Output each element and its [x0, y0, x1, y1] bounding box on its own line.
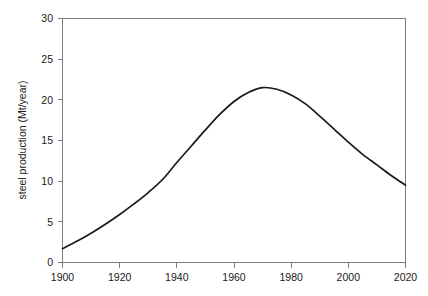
y-tick-label-15: 15	[41, 134, 53, 146]
x-tick-label-1900: 1900	[51, 271, 75, 283]
y-tick-label-0: 0	[47, 256, 53, 268]
y-tick-marks	[58, 19, 63, 263]
plot-frame	[63, 19, 406, 263]
x-tick-label-2000: 2000	[337, 271, 361, 283]
y-tick-label-10: 10	[41, 175, 53, 187]
y-tick-label-20: 20	[41, 94, 53, 106]
x-tick-label-1920: 1920	[108, 271, 132, 283]
x-tick-label-1980: 1980	[280, 271, 304, 283]
y-tick-label-30: 30	[41, 12, 53, 24]
x-tick-labels: 1900 1920 1940 1960 1980 2000 2020	[51, 271, 418, 283]
data-series-line	[63, 87, 406, 248]
y-tick-labels: 0 5 10 15 20 25 30	[41, 12, 53, 268]
x-tick-label-1940: 1940	[165, 271, 189, 283]
steel-production-chart: 0 5 10 15 20 25 30 1900 1920 1940 1960 1…	[0, 0, 428, 296]
y-axis-title: steel production (Mt/year)	[16, 80, 28, 199]
x-tick-label-1960: 1960	[222, 271, 246, 283]
chart-svg: 0 5 10 15 20 25 30 1900 1920 1940 1960 1…	[0, 0, 428, 296]
x-tick-marks	[63, 263, 406, 268]
y-tick-label-5: 5	[47, 216, 53, 228]
x-tick-label-2020: 2020	[394, 271, 418, 283]
y-tick-label-25: 25	[41, 53, 53, 65]
